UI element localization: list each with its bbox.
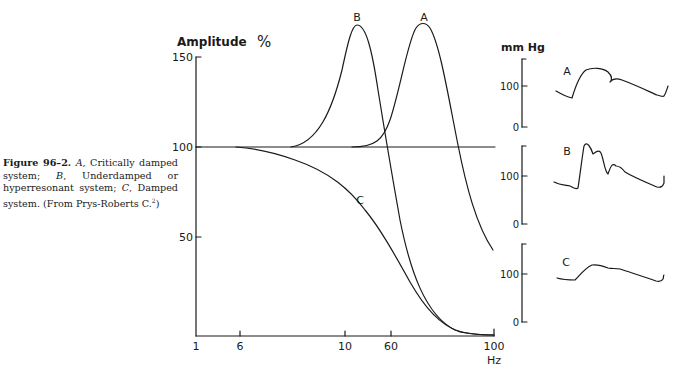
x-tick-label-1: 1	[193, 340, 200, 353]
figure-graphic: Amplitude % 150 100 50 1 6 10 60 100 Hz …	[0, 0, 686, 371]
x-tick-label-60: 60	[384, 340, 398, 353]
panel-b-tick-label-100: 100	[500, 171, 519, 182]
amplitude-chart	[196, 24, 495, 337]
panel-b-tick-label-0: 0	[513, 219, 519, 230]
panel-c-tick-label-0: 0	[513, 317, 519, 328]
percent-sign: %	[257, 33, 271, 51]
y-tick-label-150: 150	[172, 51, 193, 64]
curve-a	[352, 24, 493, 251]
panel-c-label: C	[562, 256, 570, 269]
y-axis-label: Amplitude	[177, 35, 247, 49]
panel-a-tick-label-0: 0	[513, 122, 519, 133]
x-tick-label-10: 10	[338, 340, 352, 353]
curve-b	[291, 25, 494, 335]
panel-a-tick-label-100: 100	[500, 81, 519, 92]
waveform-panel-b	[522, 144, 664, 224]
x-tick-label-100: 100	[484, 340, 505, 353]
waveform-panel-c	[522, 244, 664, 322]
x-tick-label-6: 6	[237, 340, 244, 353]
waveform-a	[556, 68, 668, 98]
curve-a-label: A	[420, 11, 428, 24]
curve-c-label: C	[356, 194, 364, 207]
panel-a-label: A	[563, 65, 571, 78]
curve-c	[236, 147, 494, 335]
curve-b-label: B	[353, 11, 361, 24]
waveform-c	[557, 265, 664, 282]
waveform-unit-label: mm Hg	[501, 41, 545, 54]
y-tick-label-100: 100	[172, 141, 193, 154]
y-tick-label-50: 50	[179, 231, 193, 244]
panel-c-tick-label-100: 100	[500, 269, 519, 280]
panel-b-label: B	[563, 145, 571, 158]
x-axis-unit: Hz	[487, 354, 501, 367]
waveform-panel-a	[522, 59, 668, 127]
